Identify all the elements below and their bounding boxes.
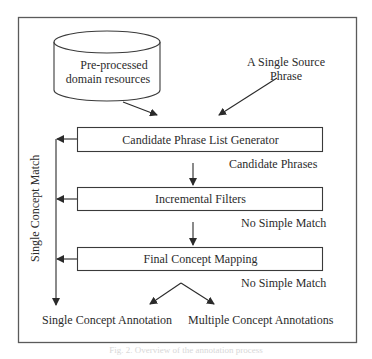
arrow-fork-left [150, 283, 181, 304]
step-1-output-label: Candidate Phrases [229, 157, 317, 171]
step-1-label: Candidate Phrase List Generator [78, 133, 323, 147]
arrow-fork-right [181, 283, 214, 304]
step-3-label: Final Concept Mapping [78, 252, 323, 266]
step-2-label: Incremental Filters [78, 192, 323, 206]
single-annotation-output: Single Concept Annotation [42, 313, 172, 327]
step-3-output-label: No Simple Match [241, 276, 326, 290]
diagram-canvas: Pre-processed domain resources A Single … [0, 0, 372, 359]
arrow-source-to-generator [219, 78, 277, 115]
data-source-label: Pre-processed domain resources [56, 58, 160, 86]
input-label: A Single Source Phrase [236, 55, 336, 83]
figure-caption: Fig. 2. Overview of the annotation proce… [0, 345, 372, 355]
multiple-annotations-output: Multiple Concept Annotations [188, 313, 333, 327]
side-branch-label: Single Concept Match [28, 155, 42, 262]
data-source-label-line1: Pre-processed [56, 58, 160, 72]
input-label-line2: Phrase [236, 69, 336, 83]
data-source-label-line2: domain resources [56, 72, 160, 86]
input-label-line1: A Single Source [236, 55, 336, 69]
diagram-graphics [0, 0, 372, 359]
step-2-output-label: No Simple Match [241, 216, 326, 230]
arrow-resources-to-generator [123, 102, 157, 115]
